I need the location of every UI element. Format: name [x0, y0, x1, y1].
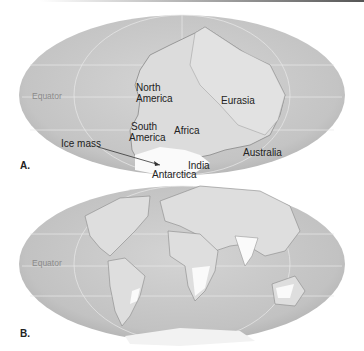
south-america-label-line1: South: [131, 122, 157, 132]
equator-label-b: Equator: [32, 258, 62, 268]
ice-mass-label: Ice mass: [61, 139, 101, 149]
south-america-label-line2: America: [129, 133, 166, 143]
eurasia-label: Eurasia: [221, 96, 255, 106]
equator-label-a: Equator: [32, 91, 62, 101]
panel-a-map: Equator North America South America Afri…: [0, 5, 364, 180]
top-border-line: [40, 0, 364, 2]
panel-a-label: A.: [20, 160, 30, 171]
north-america-label-line1: North: [136, 83, 160, 93]
north-america-label-line2: America: [136, 94, 173, 104]
panel-b-map: Equator B.: [0, 176, 364, 351]
africa-label: Africa: [174, 126, 200, 136]
australia-label: Australia: [243, 148, 282, 158]
panel-b-label: B.: [20, 328, 30, 339]
